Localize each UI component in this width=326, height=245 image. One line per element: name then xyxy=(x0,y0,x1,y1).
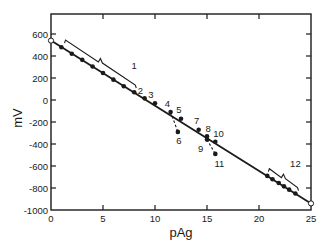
point-1 xyxy=(90,64,95,69)
point-12 xyxy=(270,177,275,182)
label-3: 3 xyxy=(148,89,153,100)
label-6: 6 xyxy=(176,135,181,146)
x-tick-label: 0 xyxy=(48,213,53,224)
point-1 xyxy=(122,84,127,89)
point-12 xyxy=(265,174,270,179)
point-9 xyxy=(205,137,210,142)
label-10: 10 xyxy=(213,128,224,139)
potential-vs-pag-chart: 6004002000-200-400-600-800-1000 05101520… xyxy=(0,0,326,245)
point-10 xyxy=(213,140,218,145)
point-5 xyxy=(179,116,184,121)
open-endpoint-start xyxy=(48,38,53,43)
y-tick-label: 0 xyxy=(43,95,48,106)
point-1 xyxy=(132,90,137,95)
point-2 xyxy=(142,96,147,101)
point-11 xyxy=(213,152,218,157)
point-1 xyxy=(59,45,64,50)
x-tick-label: 5 xyxy=(100,213,105,224)
y-tick-label: 400 xyxy=(32,51,48,62)
label-2: 2 xyxy=(138,85,143,96)
y-axis-ticks: 6004002000-200-400-600-800-1000 xyxy=(24,29,311,216)
open-endpoint-end xyxy=(308,201,313,206)
x-axis-label: pAg xyxy=(169,225,192,240)
y-tick-label: -1000 xyxy=(24,205,48,216)
label-7: 7 xyxy=(194,115,199,126)
bracket-group-1 xyxy=(65,40,137,88)
label-1: 1 xyxy=(132,60,137,71)
x-tick-label: 10 xyxy=(150,213,161,224)
point-3 xyxy=(153,101,158,106)
point-6 xyxy=(176,130,181,135)
x-tick-label: 25 xyxy=(306,213,317,224)
point-4 xyxy=(168,110,173,115)
point-1 xyxy=(70,52,75,57)
y-axis-label: mV xyxy=(10,108,25,128)
point-12 xyxy=(276,181,281,186)
y-tick-label: -400 xyxy=(29,139,48,150)
label-12: 12 xyxy=(290,158,301,169)
x-tick-label: 20 xyxy=(254,213,265,224)
point-12 xyxy=(287,187,292,192)
point-12 xyxy=(293,191,298,196)
label-8: 8 xyxy=(205,123,210,134)
label-4: 4 xyxy=(165,98,170,109)
y-tick-label: 200 xyxy=(32,73,48,84)
y-tick-label: -200 xyxy=(29,117,48,128)
point-1 xyxy=(80,58,85,63)
point-1 xyxy=(101,71,106,76)
point-7 xyxy=(196,127,201,132)
label-11: 11 xyxy=(215,158,225,169)
x-tick-label: 15 xyxy=(202,213,213,224)
y-tick-label: -800 xyxy=(29,183,48,194)
label-9: 9 xyxy=(198,143,203,154)
point-12 xyxy=(282,184,287,189)
y-tick-label: 600 xyxy=(32,29,48,40)
y-tick-label: -600 xyxy=(29,161,48,172)
label-5: 5 xyxy=(176,104,181,115)
point-1 xyxy=(111,77,116,82)
